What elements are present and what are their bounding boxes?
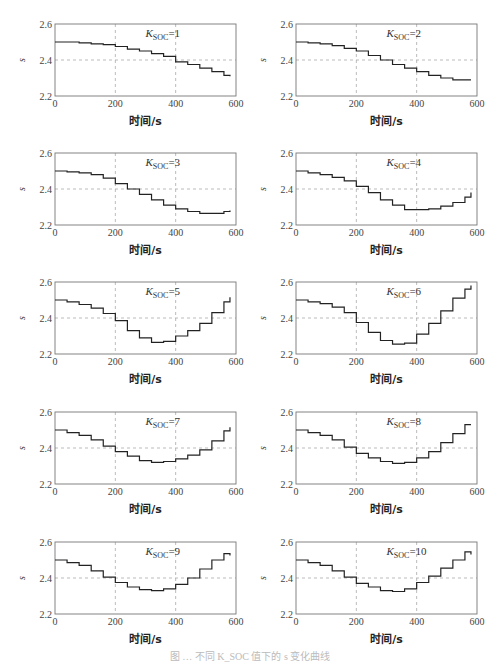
y-tick-label: 2.4 [281,573,294,584]
x-tick-label: 600 [470,616,485,627]
x-tick-label: 400 [409,616,424,627]
figure-caption: 图 … 不同 K_SOC 值下的 s 变化曲线 [0,648,500,663]
series-title: KSOC=10 [386,545,428,560]
y-tick-label: 2.2 [281,609,294,620]
y-axis-label: s [257,576,268,580]
x-tick-label: 0 [294,616,299,627]
x-axis-label: 时间/s [347,630,427,646]
y-tick-label: 2.6 [281,537,294,548]
line-chart: 02004006002.22.42.6sKSOC=10 [0,0,500,665]
x-tick-label: 200 [349,616,364,627]
data-series-line [296,552,471,592]
chart-panel-k10: 02004006002.22.42.6sKSOC=10时间/s [0,0,250,130]
